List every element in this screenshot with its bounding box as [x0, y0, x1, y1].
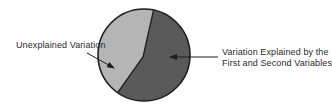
label-explained-line1: Variation Explained by the [222, 47, 332, 58]
label-explained-variation: Variation Explained by the First and Sec… [222, 47, 332, 69]
label-unexplained-variation: Unexplained Variation [16, 40, 106, 51]
label-explained-line2: First and Second Variables [222, 58, 332, 69]
